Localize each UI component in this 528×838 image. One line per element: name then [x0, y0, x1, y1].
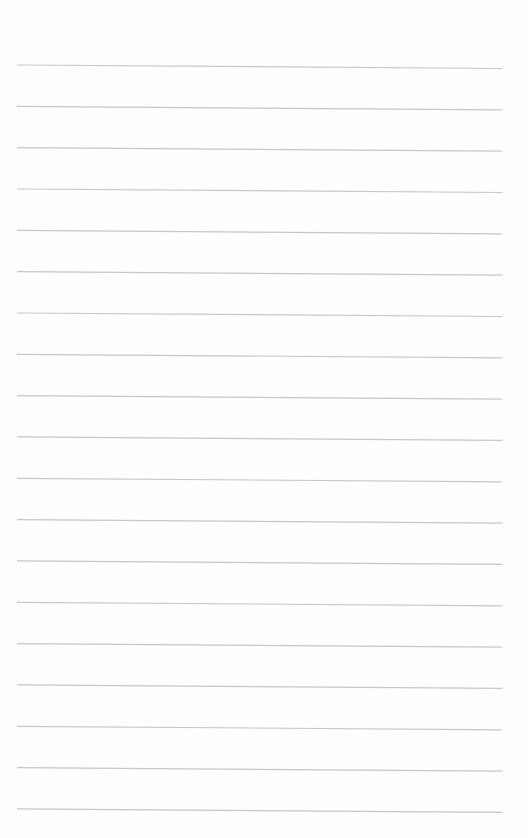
- ruled-line: [17, 809, 502, 813]
- ruled-line: [17, 602, 502, 606]
- ruled-line: [17, 520, 502, 524]
- ruled-line: [17, 148, 502, 152]
- ruled-line: [17, 313, 502, 317]
- lined-paper-sheet: [0, 0, 528, 838]
- ruled-line: [17, 272, 502, 276]
- ruled-line: [17, 106, 502, 110]
- ruled-line: [17, 354, 502, 358]
- ruled-line: [17, 478, 502, 482]
- ruled-line: [17, 230, 502, 234]
- ruled-line: [17, 561, 502, 565]
- ruled-line: [17, 685, 502, 689]
- ruled-line: [17, 644, 502, 648]
- ruled-line: [17, 768, 502, 772]
- ruled-lines: [0, 0, 528, 838]
- ruled-line: [17, 65, 502, 69]
- ruled-line: [17, 189, 502, 193]
- ruled-line: [17, 726, 502, 730]
- ruled-line: [17, 437, 502, 441]
- ruled-line: [17, 396, 502, 400]
